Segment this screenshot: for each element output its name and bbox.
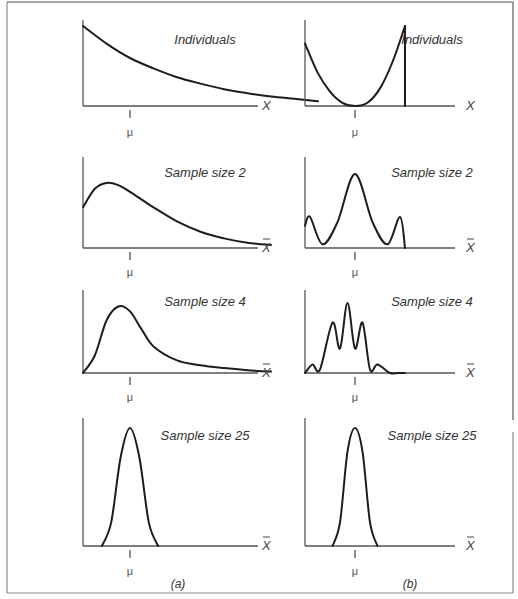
panel-title: Sample size 2: [164, 165, 246, 180]
panel-title: Sample size 25: [388, 428, 478, 443]
panel-a-2: μXSample size 2: [83, 157, 272, 278]
x-axis-label: X: [465, 365, 476, 380]
panel-title: Sample size 4: [164, 294, 246, 309]
mu-label: μ: [352, 565, 358, 577]
mu-label: μ: [352, 266, 358, 278]
panel-title: Sample size 4: [391, 294, 473, 309]
x-axis-label: X: [465, 240, 476, 255]
density-curve: [305, 174, 405, 248]
panel-a-3: μXSample size 4: [83, 290, 272, 403]
figure: μXIndividualsμXSample size 2μXSample siz…: [0, 0, 518, 599]
mu-label: μ: [352, 391, 358, 403]
caption-b: (b): [403, 577, 418, 591]
panel-title: Individuals: [401, 32, 463, 47]
panel-a-1: μXIndividuals: [83, 20, 318, 138]
panel-a-4: μXSample size 25: [83, 418, 272, 577]
panel-b-1: μXIndividuals: [305, 20, 476, 138]
mu-label: μ: [127, 126, 133, 138]
panel-title: Sample size 25: [161, 428, 251, 443]
x-axis-label: X: [261, 538, 272, 553]
density-curve: [102, 428, 158, 546]
mu-label: μ: [127, 565, 133, 577]
x-axis-label: X: [465, 538, 476, 553]
density-curve: [83, 183, 271, 245]
x-axis-label: X: [465, 98, 476, 113]
density-curve: [333, 428, 378, 546]
panel-title: Sample size 2: [391, 165, 473, 180]
density-curve: [83, 306, 271, 373]
x-axis-label: X: [261, 240, 272, 255]
density-curve: [305, 26, 405, 106]
panel-title: Individuals: [174, 32, 236, 47]
caption-a: (a): [171, 577, 186, 591]
mu-label: μ: [127, 266, 133, 278]
density-curve: [305, 303, 405, 374]
panel-b-3: μXSample size 4: [305, 290, 476, 403]
panel-b-4: μXSample size 25: [305, 418, 477, 577]
panel-b-2: μXSample size 2: [305, 157, 476, 278]
mu-label: μ: [352, 126, 358, 138]
x-axis-label: X: [261, 98, 272, 113]
mu-label: μ: [127, 391, 133, 403]
x-axis-label: X: [261, 365, 272, 380]
